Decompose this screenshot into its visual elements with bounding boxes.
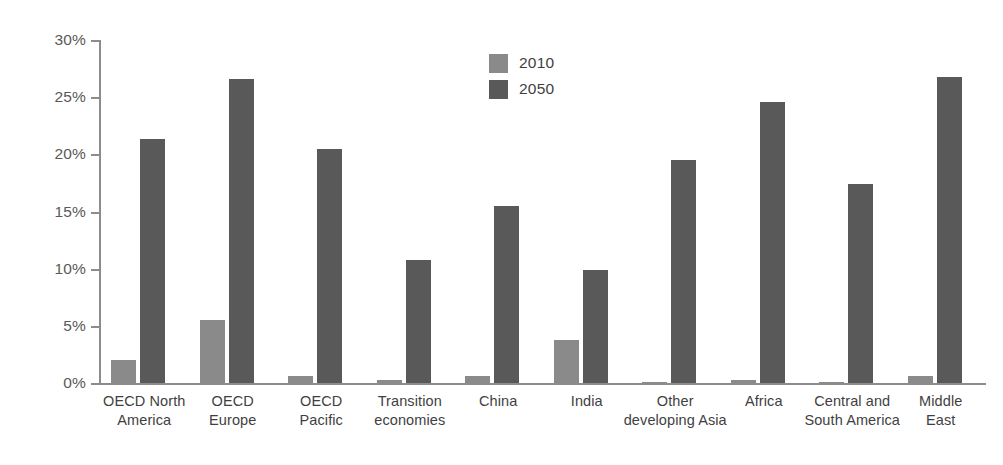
- bar-group: [189, 40, 278, 383]
- legend-swatch-icon: [489, 54, 508, 73]
- bar-2050[interactable]: [937, 77, 962, 383]
- legend-label: 2050: [519, 80, 554, 98]
- y-tick-mark: [91, 269, 100, 271]
- y-tick-mark: [91, 40, 100, 42]
- y-tick-label: 5%: [63, 317, 86, 335]
- bar-2010[interactable]: [731, 380, 756, 383]
- bar-group: [277, 40, 366, 383]
- bar-2010[interactable]: [377, 380, 402, 383]
- bar-2050[interactable]: [583, 270, 608, 383]
- y-tick-label: 15%: [54, 203, 86, 221]
- bar-group: [543, 40, 632, 383]
- bar-2010[interactable]: [111, 360, 136, 383]
- y-tick-mark: [91, 383, 100, 385]
- bar-2050[interactable]: [848, 184, 873, 383]
- chart-legend: 20102050: [489, 50, 554, 102]
- y-tick-label: 10%: [54, 260, 86, 278]
- y-tick-mark: [91, 97, 100, 99]
- bar-2010[interactable]: [819, 382, 844, 383]
- bar-2010[interactable]: [908, 376, 933, 383]
- legend-item-2050[interactable]: 2050: [489, 76, 554, 102]
- bar-group: [100, 40, 189, 383]
- category-label: Middle East: [881, 392, 1002, 430]
- bar-group: [720, 40, 809, 383]
- y-tick-label: 30%: [54, 31, 86, 49]
- bar-group: [897, 40, 986, 383]
- y-tick-mark: [91, 212, 100, 214]
- legend-item-2010[interactable]: 2010: [489, 50, 554, 76]
- bar-2050[interactable]: [671, 160, 696, 383]
- bar-2010[interactable]: [465, 376, 490, 383]
- bar-2050[interactable]: [229, 79, 254, 383]
- bar-2010[interactable]: [288, 376, 313, 383]
- bar-2050[interactable]: [760, 102, 785, 383]
- y-tick-mark: [91, 154, 100, 156]
- legend-swatch-icon: [489, 80, 508, 99]
- bar-group: [366, 40, 455, 383]
- bar-group: [808, 40, 897, 383]
- bar-2050[interactable]: [317, 149, 342, 383]
- bar-2010[interactable]: [554, 340, 579, 383]
- bar-2050[interactable]: [494, 206, 519, 383]
- bar-2050[interactable]: [140, 139, 165, 383]
- bar-2050[interactable]: [406, 260, 431, 383]
- bar-group: [631, 40, 720, 383]
- bar-2010[interactable]: [200, 320, 225, 383]
- x-axis-line: [99, 383, 986, 385]
- y-tick-label: 25%: [54, 88, 86, 106]
- y-tick-label: 20%: [54, 145, 86, 163]
- bar-chart: 30%25%20%15%10%5%0% OECD North AmericaOE…: [0, 0, 1003, 465]
- legend-label: 2010: [519, 54, 554, 72]
- y-tick-label: 0%: [63, 374, 86, 392]
- bar-2010[interactable]: [642, 382, 667, 383]
- y-tick-mark: [91, 326, 100, 328]
